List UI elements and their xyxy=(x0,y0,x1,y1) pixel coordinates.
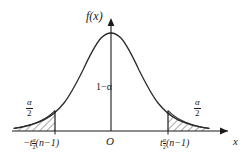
y-axis-arrowhead xyxy=(108,18,115,26)
alpha-over-two-fraction-left: α 2 xyxy=(26,98,33,118)
alpha-over-two-fraction-right: α 2 xyxy=(194,98,201,118)
y-axis-label: f(x) xyxy=(86,10,103,22)
degrees-of-freedom: (n−1) xyxy=(166,137,189,148)
right-tail-area-label: α 2 xyxy=(194,98,201,119)
x-axis-arrowhead xyxy=(220,128,228,135)
left-tail-area-label: α 2 xyxy=(26,98,33,119)
two-denominator: 2 xyxy=(26,109,33,118)
confidence-area-label: 1−α xyxy=(96,82,112,92)
left-critical-value-label: −t α 2 (n−1) xyxy=(24,137,59,150)
right-critical-value-label: t α 2 (n−1) xyxy=(160,137,189,150)
degrees-of-freedom: (n−1) xyxy=(36,137,59,148)
x-axis-label: x xyxy=(233,136,238,147)
origin-label: O xyxy=(106,136,114,147)
alpha-numerator: α xyxy=(26,98,33,107)
two-denominator: 2 xyxy=(194,109,201,118)
t-distribution-figure: f(x) x O 1−α α 2 α 2 −t α 2 (n−1) t α 2 … xyxy=(0,0,246,166)
alpha-numerator: α xyxy=(194,98,201,107)
